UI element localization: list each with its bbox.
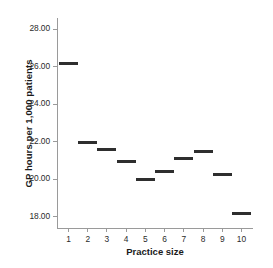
y-tick-mark — [53, 104, 57, 105]
data-point-1 — [59, 62, 78, 65]
data-point-3 — [97, 148, 116, 151]
chart-container: GP hours per 1,000 patients 28.0026.0024… — [0, 0, 273, 268]
x-tick-label: 2 — [78, 234, 98, 244]
y-tick-mark — [53, 216, 57, 217]
x-tick-label: 10 — [231, 234, 251, 244]
x-tick-mark — [183, 228, 184, 232]
x-tick-label: 5 — [135, 234, 155, 244]
data-point-9 — [213, 173, 232, 176]
y-tick-label: 28.00 — [30, 23, 50, 33]
data-point-4 — [117, 160, 136, 163]
x-tick-label: 7 — [174, 234, 194, 244]
y-tick-label: 24.00 — [30, 98, 50, 108]
x-tick-label: 9 — [212, 234, 232, 244]
y-tick-label: 18.00 — [30, 211, 50, 221]
x-tick-mark — [241, 228, 242, 232]
y-tick-label: 20.00 — [30, 173, 50, 183]
y-tick-mark — [53, 66, 57, 67]
x-tick-label: 4 — [116, 234, 136, 244]
data-point-10 — [232, 212, 251, 215]
y-tick-label: 22.00 — [30, 136, 50, 146]
data-point-7 — [174, 157, 193, 160]
y-axis-line — [57, 18, 58, 229]
data-point-5 — [136, 178, 155, 181]
x-tick-label: 8 — [193, 234, 213, 244]
x-tick-mark — [106, 228, 107, 232]
x-tick-label: 6 — [155, 234, 175, 244]
x-tick-label: 3 — [97, 234, 117, 244]
x-tick-mark — [126, 228, 127, 232]
x-tick-mark — [203, 228, 204, 232]
y-tick-mark — [53, 179, 57, 180]
x-tick-mark — [164, 228, 165, 232]
y-axis-title: GP hours per 1,000 patients — [23, 24, 34, 224]
data-point-6 — [155, 170, 174, 173]
x-axis-title: Practice size — [57, 246, 253, 257]
x-tick-mark — [222, 228, 223, 232]
y-tick-mark — [53, 29, 57, 30]
y-tick-label: 26.00 — [30, 61, 50, 71]
y-tick-mark — [53, 141, 57, 142]
x-tick-label: 1 — [59, 234, 79, 244]
x-tick-mark — [87, 228, 88, 232]
data-point-2 — [78, 141, 97, 144]
x-tick-mark — [145, 228, 146, 232]
data-point-8 — [194, 150, 213, 153]
x-tick-mark — [68, 228, 69, 232]
